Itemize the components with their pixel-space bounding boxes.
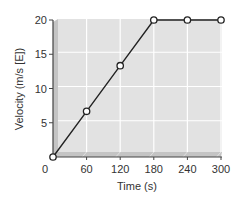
y-tick-label: 15 xyxy=(35,48,47,60)
data-point xyxy=(218,17,224,23)
x-tick-label: 240 xyxy=(178,163,196,175)
data-point xyxy=(83,108,89,114)
y-axis-ticks: 5101520 xyxy=(35,14,53,129)
data-point xyxy=(117,62,123,68)
data-point xyxy=(50,154,56,160)
plot-area xyxy=(53,19,222,157)
x-axis-title: Time (s) xyxy=(117,180,157,192)
data-point xyxy=(184,17,190,23)
y-axis-title: Velocity (m/s [E]) xyxy=(13,48,25,131)
data-point xyxy=(151,17,157,23)
x-tick-label: 0 xyxy=(42,163,48,175)
x-tick-label: 120 xyxy=(111,163,129,175)
y-tick-label: 5 xyxy=(41,117,47,129)
x-tick-label: 180 xyxy=(145,163,163,175)
x-axis-ticks: 060120180240300 xyxy=(42,157,230,175)
y-tick-label: 10 xyxy=(35,83,47,95)
x-tick-label: 300 xyxy=(212,163,230,175)
y-tick-label: 20 xyxy=(35,14,47,26)
velocity-time-chart: 060120180240300 5101520 Time (s) Velocit… xyxy=(0,0,239,200)
x-tick-label: 60 xyxy=(80,163,92,175)
